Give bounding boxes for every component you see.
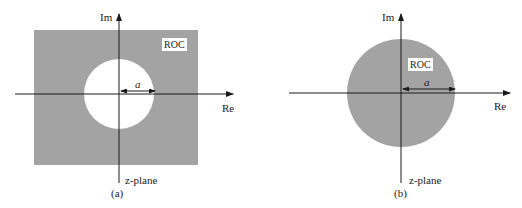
roc-label-a: ROC xyxy=(162,38,187,51)
roc-label-b: ROC xyxy=(408,58,433,71)
radius-label-b: a xyxy=(424,77,430,88)
panel-a xyxy=(15,14,233,183)
real-axis-label-a: Re xyxy=(222,103,234,114)
figure: Im Re ROC a z-plane (a) Im Re ROC a z-pl… xyxy=(0,0,522,208)
imag-axis-label-a: Im xyxy=(100,12,112,23)
real-axis-label-b: Re xyxy=(494,101,506,112)
z-plane-label-b: z-plane xyxy=(409,175,441,186)
z-plane-diagrams xyxy=(0,0,522,208)
panel-b xyxy=(289,14,510,183)
radius-label-a: a xyxy=(135,79,141,90)
z-plane-label-a: z-plane xyxy=(125,175,157,186)
imag-axis-label-b: Im xyxy=(382,12,394,23)
caption-b: (b) xyxy=(394,188,407,199)
caption-a: (a) xyxy=(111,188,123,199)
